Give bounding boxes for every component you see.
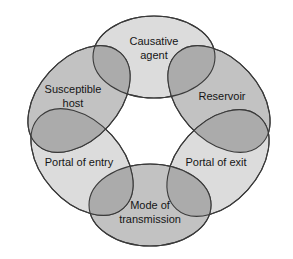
- label-susceptible-host-line1: Susceptible: [45, 83, 102, 95]
- label-mode-of-transmission-line2: transmission: [119, 212, 181, 224]
- label-portal-of-entry-line1: Portal of entry: [45, 156, 114, 168]
- label-portal-of-exit: Portal of exit: [185, 156, 246, 168]
- label-reservoir: Reservoir: [198, 90, 245, 102]
- label-causative-agent-line1: Causative: [130, 35, 179, 47]
- label-portal-of-entry: Portal of entry: [45, 156, 114, 168]
- chain-of-infection-svg: CausativeagentReservoirPortal of exitMod…: [0, 0, 293, 259]
- label-susceptible-host-line2: host: [63, 96, 84, 108]
- label-causative-agent-line2: agent: [140, 48, 168, 60]
- label-mode-of-transmission-line1: Mode of: [130, 199, 171, 211]
- label-portal-of-exit-line1: Portal of exit: [185, 156, 246, 168]
- label-reservoir-line1: Reservoir: [198, 90, 245, 102]
- chain-of-infection-diagram: CausativeagentReservoirPortal of exitMod…: [0, 0, 293, 259]
